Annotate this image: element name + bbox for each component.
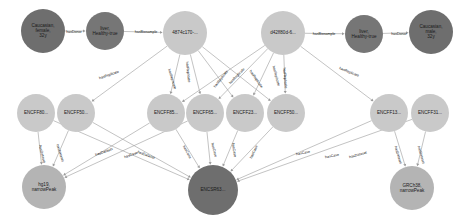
node-circle[interactable] [147, 94, 185, 132]
node-circle[interactable] [409, 10, 453, 54]
edge-arrowhead-icon [40, 162, 43, 165]
node-circle[interactable] [21, 9, 65, 53]
edge-label: hasDataset [393, 146, 402, 165]
graph-edge [301, 46, 372, 100]
graph-node-f7[interactable]: ENCFF13... [370, 94, 408, 132]
edge-label: hasDataset [349, 151, 368, 160]
edge-label: hasReplicate [271, 65, 280, 86]
graph-node-donor_f[interactable]: Caucasian,female,32y [21, 9, 65, 53]
node-circle[interactable] [188, 165, 238, 215]
node-circle[interactable] [22, 165, 66, 209]
edge-label: hasCase [210, 143, 217, 158]
node-circle[interactable] [267, 94, 305, 132]
node-circle[interactable] [57, 94, 95, 132]
graph-edge [207, 132, 210, 163]
graph-node-f1[interactable]: ENCFF80... [17, 94, 55, 132]
edge-arrowhead-icon [182, 99, 185, 102]
edge-label: hasReplicate [185, 61, 191, 82]
edge-arrowhead-icon [284, 91, 287, 94]
graph-edge [284, 55, 285, 91]
graph-edge [38, 132, 41, 163]
graph-edge [184, 45, 265, 100]
graph-edge [254, 53, 273, 94]
edge-label: hasDonor [66, 30, 82, 34]
graph-edge [383, 33, 406, 34]
edge-label: hasDataset [55, 144, 64, 163]
edge-label: hasReplicate [228, 67, 245, 85]
node-circle[interactable] [261, 11, 305, 55]
graph-edge [224, 131, 238, 165]
graph-node-bs_right[interactable]: d42ff80d-6... [261, 11, 305, 55]
graph-node-f8[interactable]: ENCFF31... [411, 94, 449, 132]
graph-edge [190, 54, 199, 92]
graph-node-f4[interactable]: ENCFF65... [186, 94, 224, 132]
edge-label: hasReplicate [99, 70, 120, 81]
graph-edge [238, 121, 371, 179]
edge-label: hasDataset [417, 146, 426, 165]
graph-edge [220, 49, 268, 98]
edge-arrowhead-icon [342, 32, 345, 35]
node-circle[interactable] [163, 11, 207, 55]
graph-node-f3[interactable]: ENCFF85... [147, 94, 185, 132]
nodes-layer: Caucasian,female,32yliver,Healthy-true48… [17, 9, 453, 215]
edge-label: hasDataset [95, 147, 113, 157]
edge-arrowhead-icon [92, 99, 95, 102]
edge-arrowhead-icon [231, 95, 234, 98]
graph-node-f5[interactable]: ENCFF23... [226, 94, 264, 132]
graph-edge [395, 131, 405, 164]
graph-edge [93, 46, 167, 100]
edge-arrowhead-icon [83, 30, 86, 33]
graph-edge [176, 129, 199, 166]
graph-edge [418, 131, 426, 164]
graph-edge [171, 54, 180, 92]
graph-node-f6[interactable]: ENCFF50... [267, 94, 305, 132]
edge-arrowhead-icon [371, 99, 374, 102]
edge-label: hasReplicate [339, 66, 360, 77]
edge-label: hasCase [325, 153, 340, 160]
graph-edge [124, 31, 160, 32]
knowledge-graph-canvas[interactable]: Caucasian,female,32yliver,Healthy-true48… [0, 0, 469, 221]
graph-edge [232, 127, 273, 170]
graph-node-donor_m[interactable]: Caucasian,male,32y [409, 10, 453, 54]
graph-node-asm_hg19[interactable]: hg19,narrowPeak [22, 165, 66, 209]
edge-label: hasDataset [38, 145, 46, 164]
graph-node-bs_left[interactable]: 4874c170-... [163, 11, 207, 55]
node-circle[interactable] [86, 12, 124, 50]
edge-arrowhead-icon [198, 91, 201, 94]
graph-svg: Caucasian,female,32yliver,Healthy-true48… [0, 0, 469, 221]
graph-node-f2[interactable]: ENCFF50... [57, 94, 95, 132]
node-circle[interactable] [411, 94, 449, 132]
edge-arrowhead-icon [209, 162, 212, 165]
edge-arrowhead-icon [170, 91, 173, 94]
graph-node-bt_right[interactable]: liver,Healthy-true [345, 15, 383, 53]
edge-label: hasBiosample [313, 32, 336, 36]
edge-arrowhead-icon [406, 31, 409, 34]
edge-label: hasDataset [137, 150, 155, 160]
node-circle[interactable] [226, 94, 264, 132]
graph-edge [54, 130, 69, 164]
graph-edge [198, 51, 232, 96]
node-circle[interactable] [186, 94, 224, 132]
edge-arrowhead-icon [160, 31, 163, 34]
graph-node-dataset[interactable]: ENCSR63... [188, 165, 238, 215]
graph-edge [202, 47, 269, 100]
node-circle[interactable] [370, 94, 408, 132]
graph-edge [93, 122, 189, 176]
node-circle[interactable] [390, 166, 434, 210]
node-circle[interactable] [345, 15, 383, 53]
edge-arrowhead-icon [416, 163, 419, 166]
graph-node-asm_grch38[interactable]: GRCh38,narrowPeak [390, 166, 434, 210]
graph-node-bt_left[interactable]: liver,Healthy-true [86, 12, 124, 50]
node-circle[interactable] [17, 94, 55, 132]
